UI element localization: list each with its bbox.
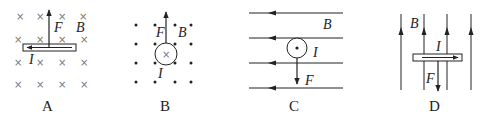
field-direction-arrowheads [268,11,276,91]
current-label: I [312,45,319,60]
svg-text:×: × [16,11,24,22]
svg-text:×: × [14,34,22,45]
panel-b: × F B I B [135,12,193,114]
svg-text:×: × [58,57,66,68]
current-label: I [435,39,442,54]
svg-text:×: × [14,79,22,90]
svg-text:×: × [80,57,88,68]
caption-a: A [42,98,53,114]
force-label: F [425,71,435,86]
svg-text:×: × [36,57,44,68]
current-out-of-page-icon [295,46,298,49]
svg-text:×: × [80,34,88,45]
caption-c: C [289,98,299,114]
panel-d: B I F D [399,14,474,114]
panel-c: B I F C [249,11,343,115]
force-label: F [155,25,165,40]
current-label: I [157,66,164,81]
current-into-page-icon: × [162,49,170,60]
current-label: I [28,52,35,67]
caption-b: B [160,98,170,114]
field-label: B [76,20,85,35]
svg-text:×: × [58,34,66,45]
svg-text:×: × [80,79,88,90]
svg-text:×: × [36,11,44,22]
field-label: B [410,16,419,31]
field-label: B [178,25,187,40]
svg-text:×: × [36,34,44,45]
force-label: F [53,20,63,35]
caption-d: D [429,98,440,114]
field-label: B [323,17,332,32]
panel-a: × × × × × × × × × × × × × × × × F B I A [14,10,88,114]
physics-diagram: × × × × × × × × × × × × × × × × F B I A [0,0,485,121]
svg-text:×: × [14,57,22,68]
force-label: F [304,73,314,88]
svg-text:×: × [36,79,44,90]
svg-text:×: × [58,79,66,90]
